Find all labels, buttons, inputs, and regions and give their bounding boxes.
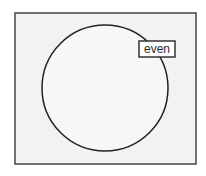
set-even-label: even	[139, 41, 175, 57]
venn-diagram: even	[0, 0, 206, 176]
label-text: even	[144, 42, 170, 56]
